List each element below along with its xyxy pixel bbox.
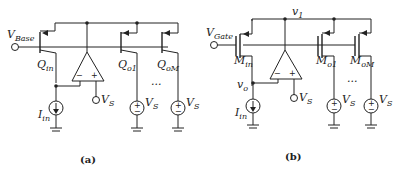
q-o1-transistor: Qo1 <box>118 23 137 101</box>
ellipsis: ... <box>151 75 162 88</box>
m-o1-transistor: Mo1 <box>315 19 337 99</box>
svg-text:+: + <box>91 71 98 80</box>
svg-text:Iin: Iin <box>234 106 247 121</box>
iin-current-source: Iin <box>37 86 63 131</box>
vbase-label: VBase <box>7 28 35 43</box>
vo-node-label: vo <box>237 78 248 93</box>
figure-a: VBase Qin − + VS <box>7 21 200 165</box>
svg-text:VS: VS <box>101 93 115 108</box>
opamp-a: − + VS <box>56 23 115 108</box>
svg-text:VS: VS <box>379 93 393 108</box>
top-rail-b <box>252 19 371 32</box>
svg-text:−: − <box>175 107 182 116</box>
vs-source-om: + − VS <box>171 96 200 131</box>
vgate-terminal <box>211 42 218 49</box>
svg-text:Qo1: Qo1 <box>118 58 137 73</box>
q-in-transistor: Qin <box>37 23 56 83</box>
vs-terminal <box>291 95 298 102</box>
svg-text:−: − <box>331 105 338 114</box>
ellipsis-b: ... <box>347 72 358 85</box>
svg-text:−: − <box>76 71 83 80</box>
svg-text:−: − <box>274 69 281 78</box>
vs-terminal <box>93 97 100 104</box>
opamp-b: − + VS <box>253 19 313 106</box>
top-rail-a <box>55 23 178 33</box>
svg-text:Qin: Qin <box>37 58 54 73</box>
svg-text:Iin: Iin <box>37 108 50 123</box>
figure-b: v1 VGate Min − + VS vo <box>206 5 393 162</box>
vs-source-mo1: + − VS <box>327 93 356 128</box>
caption-b: (b) <box>285 151 301 162</box>
svg-text:QoM: QoM <box>157 58 180 73</box>
svg-text:+: + <box>289 69 296 78</box>
svg-text:VS: VS <box>145 96 159 111</box>
svg-text:VS: VS <box>186 96 200 111</box>
svg-text:VS: VS <box>299 91 313 106</box>
q-om-transistor: QoM <box>157 30 180 101</box>
v1-node-label: v1 <box>292 5 303 20</box>
caption-a: (a) <box>80 154 96 165</box>
m-om-transistor: MoM <box>349 30 375 99</box>
svg-text:−: − <box>134 107 141 116</box>
svg-text:VS: VS <box>342 93 356 108</box>
vs-source-o1: + − VS <box>130 96 159 131</box>
vs-source-mom: + − VS <box>364 93 393 128</box>
svg-text:−: − <box>368 105 375 114</box>
circuit-diagram: VBase Qin − + VS <box>0 0 400 175</box>
vgate-label: VGate <box>206 26 233 41</box>
vbase-terminal <box>12 44 19 51</box>
